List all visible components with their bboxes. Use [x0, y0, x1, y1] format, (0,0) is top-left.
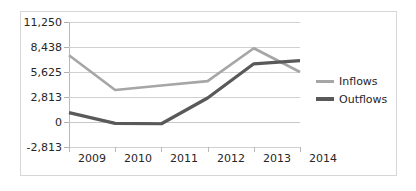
x-axis-tick	[69, 147, 70, 152]
x-axis-label-2011: 2011	[164, 153, 204, 164]
x-axis-tick	[161, 147, 162, 152]
y-axis-label-1: 8,438	[14, 42, 62, 53]
x-axis-tick	[208, 147, 209, 152]
y-axis-labels: 11,250 8,438 5,625 2,813 0 -2,813	[14, 0, 62, 191]
legend-label-outflows: Outflows	[339, 94, 387, 105]
line-series-inflows	[69, 48, 300, 90]
series-lines	[69, 22, 300, 147]
x-axis-label-2013: 2013	[257, 153, 297, 164]
legend-item-outflows: Outflows	[316, 91, 392, 107]
y-axis-label-0: 11,250	[14, 17, 62, 28]
chart-legend: Inflows Outflows	[316, 73, 392, 109]
legend-label-inflows: Inflows	[339, 76, 378, 87]
plot-area	[69, 22, 300, 147]
x-axis-label-2014: 2014	[303, 153, 343, 164]
y-axis-label-2: 5,625	[14, 67, 62, 78]
x-axis-label-2009: 2009	[72, 153, 112, 164]
chart-screenshot: 11,250 8,438 5,625 2,813 0 -2,813 2009 2…	[0, 0, 416, 191]
line-series-outflows	[69, 61, 300, 124]
x-axis-label-2010: 2010	[118, 153, 158, 164]
legend-swatch-outflows	[316, 97, 334, 101]
gridline	[69, 147, 300, 148]
y-axis-label-3: 2,813	[14, 92, 62, 103]
legend-item-inflows: Inflows	[316, 73, 392, 89]
x-axis-label-2012: 2012	[211, 153, 251, 164]
y-axis-label-5: -2,813	[14, 142, 62, 153]
x-axis-tick	[300, 147, 301, 152]
x-axis-tick	[115, 147, 116, 152]
y-axis-label-4: 0	[14, 117, 62, 128]
x-axis-tick	[254, 147, 255, 152]
legend-swatch-inflows	[316, 80, 334, 83]
